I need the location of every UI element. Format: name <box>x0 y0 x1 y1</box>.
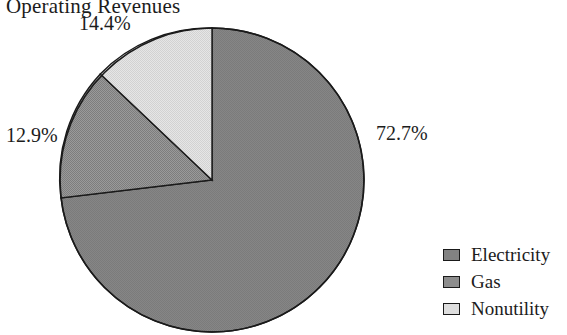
legend-swatch-electricity <box>443 249 460 261</box>
legend-item-electricity[interactable]: Electricity <box>443 241 565 268</box>
legend-item-nonutility[interactable]: Nonutility <box>443 295 565 322</box>
legend-swatch-gas <box>443 276 460 288</box>
slice-label-electricity: 72.7% <box>376 122 428 144</box>
legend-label-electricity: Electricity <box>471 244 550 265</box>
legend-label-gas: Gas <box>471 271 501 292</box>
slice-label-nonutility: 14.4% <box>79 12 131 34</box>
legend-item-gas[interactable]: Gas <box>443 268 565 295</box>
slice-label-gas: 12.9% <box>6 124 58 146</box>
legend-swatch-nonutility <box>443 303 460 315</box>
pie-chart-figure: Operating Revenues <box>0 0 567 335</box>
legend: Electricity Gas Nonutility <box>443 241 565 322</box>
legend-label-nonutility: Nonutility <box>471 298 549 319</box>
